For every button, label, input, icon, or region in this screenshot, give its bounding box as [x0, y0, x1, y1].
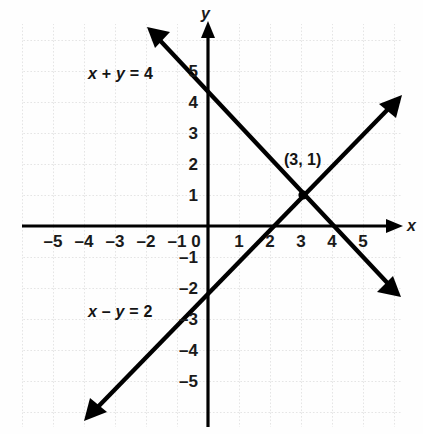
tick-label-x--2: –2 [137, 233, 156, 250]
intersection-point-label: (3, 1) [284, 152, 321, 168]
equation2-operator: – [102, 303, 111, 320]
tick-label-x-5: 5 [358, 233, 367, 250]
equation1-result: = 4 [130, 65, 153, 82]
x-axis-label: x [407, 218, 416, 234]
tick-label-y-1: 1 [170, 187, 198, 204]
tick-label-y--5: –5 [163, 373, 198, 390]
tick-label-x-4: 4 [327, 233, 336, 250]
tick-label-x-1: 1 [234, 233, 243, 250]
graph-canvas [0, 0, 423, 434]
tick-label-y--2: –2 [163, 280, 198, 297]
tick-label-y--1: –1 [163, 249, 198, 266]
tick-label-x--3: –3 [106, 233, 125, 250]
tick-label-y-3: 3 [170, 125, 198, 142]
tick-label-y--4: –4 [163, 342, 198, 359]
coordinate-plane-graph: y x 0 –5 –4 –3 –2 –1 1 2 3 4 5 5 4 3 2 1… [0, 0, 423, 434]
equation-label-line1: x + y = 4 [88, 66, 153, 82]
tick-label-y-5: 5 [170, 63, 198, 80]
equation2-variable-y: y [116, 303, 125, 320]
equation-label-line2: x – y = 2 [88, 304, 153, 320]
equation1-variable-y: y [116, 65, 125, 82]
equation1-operator: + [102, 65, 112, 82]
tick-label-y-4: 4 [170, 94, 198, 111]
intersection-point-marker [298, 190, 307, 199]
equation1-variable-x: x [88, 65, 97, 82]
tick-label-y--3: –3 [163, 311, 198, 328]
tick-label-x--4: –4 [75, 233, 94, 250]
tick-label-x--5: –5 [44, 233, 63, 250]
equation2-result: = 2 [129, 303, 152, 320]
equation2-variable-x: x [88, 303, 97, 320]
y-axis-label: y [201, 6, 210, 22]
tick-label-x-2: 2 [265, 233, 274, 250]
tick-label-x-3: 3 [296, 233, 305, 250]
tick-label-y-2: 2 [170, 156, 198, 173]
